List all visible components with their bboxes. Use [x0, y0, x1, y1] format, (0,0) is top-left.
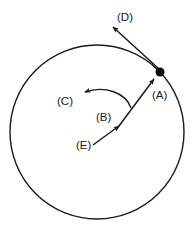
label-c: (C)	[57, 95, 73, 107]
radial-arrow-a	[116, 79, 154, 130]
label-a: (A)	[152, 89, 168, 101]
label-d: (D)	[117, 11, 133, 23]
label-b: (B)	[96, 111, 112, 123]
label-e: (E)	[76, 139, 92, 151]
particle-dot	[156, 68, 165, 77]
radial-arrow-e	[93, 126, 119, 145]
physics-diagram-figure: (A) (B) (C) (D) (E)	[0, 0, 196, 236]
curved-arrow-c	[85, 89, 131, 108]
diagram-canvas: (A) (B) (C) (D) (E)	[0, 0, 196, 236]
